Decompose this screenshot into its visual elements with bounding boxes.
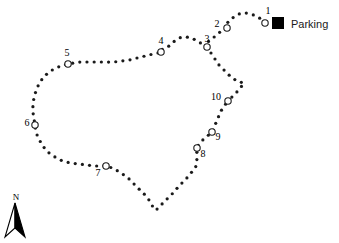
- stop-marker-1[interactable]: 1: [262, 5, 271, 26]
- trail-dot: [218, 31, 221, 34]
- trail-dot: [171, 192, 174, 195]
- trail-dot: [31, 105, 34, 108]
- trail-dot: [217, 63, 220, 66]
- north-arrow-label: N: [13, 192, 20, 202]
- stop-marker-circle-icon[interactable]: [224, 25, 230, 31]
- trail-dot: [238, 12, 241, 15]
- stop-markers-group[interactable]: 12345678910: [25, 5, 271, 178]
- stop-marker-circle-icon[interactable]: [194, 145, 200, 151]
- trail-dot: [60, 159, 63, 162]
- trail-dot: [213, 35, 216, 38]
- legend-parking: Parking: [272, 17, 328, 30]
- trail-dot: [107, 60, 110, 63]
- trail-dot: [233, 78, 236, 81]
- trail-map-canvas: 12345678910 Parking N: [0, 0, 339, 243]
- trail-dot: [245, 12, 248, 15]
- stop-marker-2[interactable]: 2: [215, 18, 231, 31]
- stop-label-3: 3: [205, 33, 210, 44]
- stop-marker-5[interactable]: 5: [65, 47, 72, 67]
- trail-dot: [85, 60, 88, 63]
- trail-dot: [179, 36, 182, 39]
- trail-dot: [258, 17, 261, 20]
- stop-marker-3[interactable]: 3: [204, 33, 210, 50]
- trail-dot: [195, 158, 198, 161]
- trail-dot: [185, 176, 188, 179]
- parking-square-icon: [272, 17, 284, 29]
- stop-marker-circle-icon[interactable]: [103, 163, 109, 169]
- trail-dot: [47, 151, 50, 154]
- stop-label-1: 1: [266, 5, 271, 16]
- stop-marker-9[interactable]: 9: [209, 129, 221, 142]
- stop-marker-6[interactable]: 6: [25, 117, 39, 128]
- trail-dot: [199, 41, 202, 44]
- stop-label-8: 8: [201, 148, 206, 159]
- trail-dot: [138, 188, 141, 191]
- trail-dot: [175, 187, 178, 190]
- stop-marker-circle-icon[interactable]: [225, 98, 231, 104]
- trail-dot: [190, 171, 193, 174]
- trail-dot: [142, 55, 145, 58]
- north-arrow-left-half-icon: [5, 203, 15, 237]
- stop-marker-circle-icon[interactable]: [65, 61, 71, 67]
- trail-dot: [252, 13, 255, 16]
- trail-dot: [143, 193, 146, 196]
- trail-dot: [36, 84, 39, 87]
- trail-dot: [213, 57, 216, 60]
- trail-dot: [122, 173, 125, 176]
- trail-dot: [166, 197, 169, 200]
- trail-dot: [57, 65, 60, 68]
- trail-dot: [220, 109, 223, 112]
- trail-dot: [67, 161, 70, 164]
- trail-dot: [228, 74, 231, 77]
- trail-dot: [232, 16, 235, 19]
- trail-dot: [128, 58, 131, 61]
- trail-dot: [88, 164, 91, 167]
- stop-marker-10[interactable]: 10: [211, 91, 231, 104]
- trail-dot: [32, 98, 35, 101]
- trail-dot: [43, 146, 46, 149]
- north-arrow: N: [5, 192, 25, 237]
- trail-path-dots: [31, 12, 266, 211]
- trail-dot: [45, 73, 48, 76]
- trail-dot: [230, 96, 233, 99]
- trail-dot: [135, 56, 138, 59]
- trail-dot: [161, 202, 164, 205]
- trail-dot: [116, 169, 119, 172]
- stop-marker-circle-icon[interactable]: [32, 122, 38, 128]
- stop-label-9: 9: [216, 131, 221, 142]
- trail-dot: [226, 21, 229, 24]
- parking-legend-label: Parking: [291, 18, 328, 30]
- trail-dot: [132, 182, 135, 185]
- trail-dot: [235, 90, 238, 93]
- trail-dot: [74, 162, 77, 165]
- trail-dot: [151, 204, 154, 207]
- trail-dot: [40, 78, 43, 81]
- stop-marker-circle-icon[interactable]: [262, 20, 268, 26]
- trail-dot: [201, 138, 204, 141]
- stop-marker-4[interactable]: 4: [158, 35, 164, 55]
- trail-dot: [173, 40, 176, 43]
- trail-dot: [217, 115, 220, 118]
- stop-marker-circle-icon[interactable]: [204, 44, 210, 50]
- trail-dot: [155, 207, 158, 210]
- trail-dot: [240, 85, 243, 88]
- stop-label-10: 10: [211, 91, 221, 102]
- stop-label-2: 2: [215, 18, 220, 29]
- trail-dot: [51, 68, 54, 71]
- trail-map: 12345678910 Parking N: [0, 0, 339, 243]
- trail-dot: [39, 140, 42, 143]
- stop-label-7: 7: [96, 167, 101, 178]
- trail-dot: [186, 36, 189, 39]
- trail-dot: [32, 112, 35, 115]
- trail-dot: [81, 163, 84, 166]
- trail-dot: [167, 45, 170, 48]
- stop-marker-circle-icon[interactable]: [158, 49, 164, 55]
- trail-dot: [100, 60, 103, 63]
- trail-dot: [180, 181, 183, 184]
- stop-marker-circle-icon[interactable]: [209, 129, 215, 135]
- trail-dot: [194, 165, 197, 168]
- trail-dot: [214, 122, 217, 125]
- trail-dot: [53, 155, 56, 158]
- trail-dot: [240, 81, 243, 84]
- trail-dot: [193, 38, 196, 41]
